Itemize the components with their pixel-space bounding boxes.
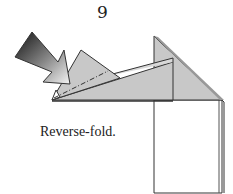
origami-diagram <box>0 0 233 194</box>
push-arrow-icon <box>15 32 70 84</box>
rectangle-body <box>154 100 222 193</box>
caption: Reverse-fold. <box>40 124 116 140</box>
